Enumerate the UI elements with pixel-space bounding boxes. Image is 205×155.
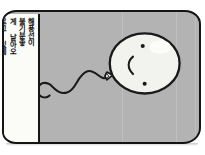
comic-panel-screenshot: 해풍선이 불기분좋 게 날아오 르고 있네 [0, 0, 205, 155]
balloon-knot [105, 72, 113, 80]
caption-text: 해풍선이 불기분좋 게 날아오 르고 있네 [2, 18, 35, 140]
balloon-mouth-curve [129, 57, 133, 74]
comic-panel: 해풍선이 불기분좋 게 날아오 르고 있네 [2, 10, 201, 144]
caption-box: 해풍선이 불기분좋 게 날아오 르고 있네 [2, 14, 40, 144]
balloon-knot-crease [106, 73, 109, 79]
balloon-string [38, 71, 109, 98]
paper-texture-line-1 [122, 12, 123, 142]
balloon-eye-lower-dot [143, 82, 147, 86]
balloon-body [110, 33, 180, 93]
balloon-eye-upper-dot [141, 44, 145, 48]
balloon-highlight [150, 40, 171, 54]
paper-texture-line-3 [195, 12, 196, 142]
paper-texture-line-2 [176, 12, 177, 142]
